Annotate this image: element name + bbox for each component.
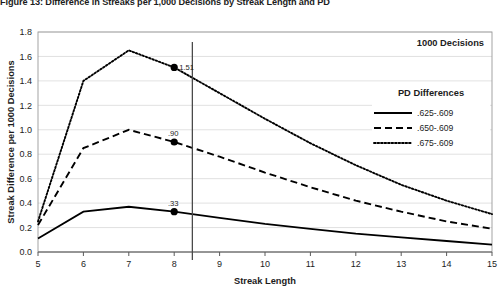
x-tick-label: 10 <box>260 259 270 269</box>
x-axis-tick-marks <box>38 252 492 256</box>
y-tick-label: 1.6 <box>19 52 32 62</box>
annotations-group: 1.51.90.33 <box>168 63 194 215</box>
legend-label-1: .625-.609 <box>417 108 454 118</box>
x-tick-label: 9 <box>217 259 222 269</box>
legend-label-2: .650-.609 <box>417 123 454 133</box>
x-tick-label: 8 <box>172 259 177 269</box>
x-axis-tick-labels: 56789101112131415 <box>35 259 497 269</box>
x-tick-label: 7 <box>126 259 131 269</box>
data-point-marker <box>171 138 178 145</box>
data-point-label: .90 <box>168 129 179 138</box>
y-axis-title: Streak Difference per 1000 Decisions <box>6 60 16 223</box>
series-line-1 <box>38 207 492 245</box>
x-tick-label: 14 <box>442 259 452 269</box>
data-point-marker <box>171 208 178 215</box>
x-tick-label: 11 <box>306 259 315 269</box>
data-point-marker <box>171 64 178 71</box>
figure-container: Figure 13: Difference in Streaks per 1,0… <box>0 0 501 286</box>
x-axis-title: Streak Length <box>234 276 296 286</box>
x-tick-label: 6 <box>81 259 86 269</box>
x-tick-label: 15 <box>487 259 497 269</box>
y-tick-label: 0.2 <box>19 223 32 233</box>
legend-title: PD Differences <box>398 88 464 98</box>
y-tick-label: 0.4 <box>19 198 32 208</box>
decisions-note: 1000 Decisions <box>417 38 484 48</box>
y-tick-label: 0.0 <box>19 247 32 257</box>
chart-canvas: 0.00.20.40.60.81.01.21.41.61.8 567891011… <box>0 0 501 286</box>
y-axis-tick-labels: 0.00.20.40.60.81.01.21.41.61.8 <box>19 27 32 257</box>
y-tick-label: 0.8 <box>19 149 32 159</box>
data-point-label: .33 <box>168 199 179 208</box>
y-tick-label: 0.6 <box>19 174 32 184</box>
y-tick-label: 1.2 <box>19 101 32 111</box>
y-tick-label: 1.4 <box>19 76 32 86</box>
chart-legend: PD Differences .625-.609.650-.609.675-.6… <box>372 86 490 148</box>
legend-label-3: .675-.609 <box>417 138 454 148</box>
y-tick-label: 1.8 <box>19 27 32 37</box>
x-tick-label: 5 <box>35 259 40 269</box>
y-tick-label: 1.0 <box>19 125 32 135</box>
x-tick-label: 12 <box>351 259 361 269</box>
x-tick-label: 13 <box>396 259 406 269</box>
data-point-label: 1.51 <box>179 63 194 72</box>
